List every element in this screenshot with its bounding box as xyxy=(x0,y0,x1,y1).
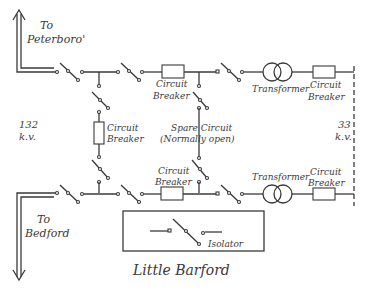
single-line-diagram: To Peterboro' To Bedford 132 k.v. 33 k.v… xyxy=(0,0,369,292)
voltage-right-2: k.v. xyxy=(335,131,352,142)
transformer-top-label: Transformer xyxy=(252,84,310,94)
cb-left-label-2: Breaker xyxy=(106,134,144,144)
to-bedford-label-2: Bedford xyxy=(24,227,70,240)
diagram-title: Little Barford xyxy=(132,262,230,278)
cb-top-right-label-2: Breaker xyxy=(307,92,345,102)
spare-circuit-label-1: Spare Circuit xyxy=(171,123,233,133)
cb-top-label-2: Breaker xyxy=(152,91,190,101)
transformer-bottom-label: Transformer xyxy=(252,172,310,182)
cb-top-right-label-1: Circuit xyxy=(310,80,342,90)
voltage-left-2: k.v. xyxy=(19,131,36,142)
cb-bottom-right-label-2: Breaker xyxy=(307,178,345,188)
legend-isolator-label: Isolator xyxy=(207,239,244,249)
cb-top-label-1: Circuit xyxy=(156,79,188,89)
to-peterboro-label-1: To xyxy=(40,19,53,32)
cb-left-label-1: Circuit xyxy=(107,123,139,133)
spare-circuit-label-2: (Normally open) xyxy=(160,134,235,144)
voltage-right-1: 33 xyxy=(338,119,351,130)
voltage-left-1: 132 xyxy=(19,119,38,130)
cb-bottom-right-label-1: Circuit xyxy=(310,167,342,177)
cb-bottom-label-1: Circuit xyxy=(158,166,190,176)
to-bedford-label-1: To xyxy=(37,213,50,226)
cb-bottom-label-2: Breaker xyxy=(154,177,192,187)
to-peterboro-label-2: Peterboro' xyxy=(26,33,85,46)
